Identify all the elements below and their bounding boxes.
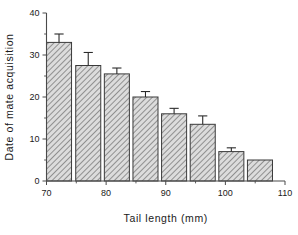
bar — [104, 74, 129, 181]
y-axis-title: Date of mate acquisition — [3, 33, 15, 160]
bar — [162, 114, 187, 181]
y-tick-label: 10 — [29, 134, 39, 144]
bar — [47, 42, 72, 181]
x-tick-label: 110 — [278, 188, 292, 198]
bar — [76, 66, 101, 182]
bar — [190, 124, 215, 181]
x-tick-label: 80 — [101, 188, 111, 198]
chart-figure: 010203040 708090100110 Tail length (mm) … — [0, 0, 298, 235]
y-tick-label: 0 — [34, 176, 39, 186]
x-tick-label: 90 — [161, 188, 171, 198]
bar-chart: 010203040 708090100110 Tail length (mm) … — [0, 0, 298, 235]
x-tick-label: 100 — [218, 188, 233, 198]
y-tick-label: 40 — [29, 8, 39, 18]
x-tick-label: 70 — [41, 188, 51, 198]
x-axis-title: Tail length (mm) — [124, 212, 208, 224]
y-tick-label: 20 — [29, 92, 39, 102]
bar — [133, 97, 158, 181]
bar — [247, 160, 272, 181]
bar — [219, 152, 244, 181]
y-tick-label: 30 — [29, 50, 39, 60]
